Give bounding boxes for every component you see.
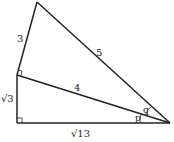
label-side-sqrt13: √13 (71, 128, 90, 139)
label-side-sqrt3: √3 (1, 93, 14, 104)
label-side-5: 5 (96, 47, 102, 58)
label-angle-q: q (143, 105, 149, 115)
geometry-diagram: 3 5 4 √3 √13 q p (0, 0, 174, 142)
label-side-4: 4 (74, 82, 80, 93)
side-5 (37, 2, 170, 123)
label-angle-p: p (135, 113, 141, 123)
side-4 (17, 75, 170, 123)
label-side-3: 3 (17, 33, 23, 44)
